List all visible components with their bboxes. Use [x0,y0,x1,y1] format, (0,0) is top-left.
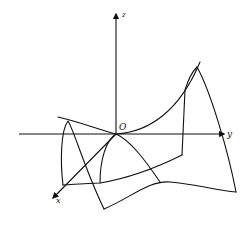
right-back-edge [182,67,197,155]
saddle-diagram: z y x O [0,0,248,225]
parabola-yz-upward [58,62,200,134]
bottom-front-edge [104,182,236,209]
x-axis-label: x [56,196,61,205]
z-axis-label: z [121,11,126,19]
origin-label: O [119,122,127,132]
y-axis-label: y [226,129,233,139]
